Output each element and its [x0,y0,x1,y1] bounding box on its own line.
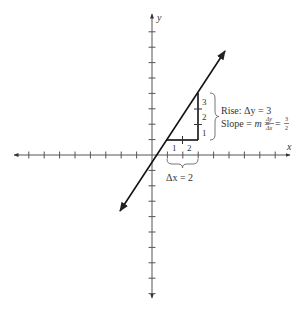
run-tick-label-1: 1 [172,143,177,153]
svg-text:Δx: Δx [265,125,273,131]
y-axis-label: y [156,12,162,23]
run-brace [167,159,198,168]
svg-text:=: = [275,118,281,129]
svg-text:3: 3 [285,116,288,122]
run-label: Δx = 2 [166,172,193,183]
x-axis-label: x [286,141,292,152]
rise-tick-label-2: 2 [202,112,207,122]
x-axis: x [14,141,292,159]
svg-text:2: 2 [285,125,288,131]
svg-text:Slope = m =: Slope = m = [221,118,270,129]
rise-tick-label-3: 3 [202,97,207,107]
run-tick-label-2: 2 [187,143,192,153]
slope-formula: Slope = m = Δy Δx = 3 2 [221,116,289,131]
rise-brace [210,93,219,140]
slope-diagram: x y 1 2 Δx = 2 1 2 3 Rise: Δy = 3 Slope … [0,0,302,313]
rise-label: Rise: Δy = 3 [221,105,271,116]
rise-run-triangle [167,93,202,144]
svg-text:Δy: Δy [265,116,273,122]
rise-tick-label-1: 1 [202,128,207,138]
sloped-line [120,51,225,211]
